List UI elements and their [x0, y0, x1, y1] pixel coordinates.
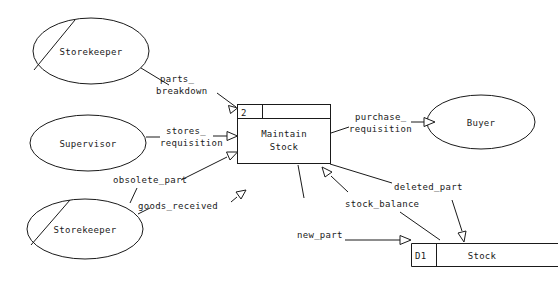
datastore-name: Stock — [468, 251, 497, 261]
flow-label-line1: goods_received — [138, 201, 218, 211]
arrow-head-icon — [322, 167, 332, 177]
flow-label-line2: requisition — [349, 124, 412, 134]
flow-line-segment-b — [217, 93, 236, 107]
arrow-head-icon — [458, 231, 466, 242]
arrow-head-icon — [236, 190, 246, 199]
process-name-line1: Maintain — [261, 129, 307, 139]
datastore-stock[interactable]: D1 Stock — [412, 244, 558, 267]
entity-label: Storekeeper — [60, 47, 123, 57]
process-number: 2 — [241, 108, 247, 118]
flow-label-line1: purchase_ — [355, 112, 407, 122]
entity-label: Storekeeper — [54, 225, 117, 235]
entity-label: Supervisor — [59, 139, 116, 149]
process-maintain-stock[interactable]: 2 Maintain Stock — [238, 105, 331, 164]
flow-stores-requisition[interactable]: stores_ requisition — [146, 126, 238, 148]
arrow-head-icon — [227, 152, 238, 160]
flow-line-segment-b — [231, 197, 237, 202]
data-flow-diagram: Storekeeper Supervisor Storekeeper Buyer… — [0, 0, 558, 281]
external-entity-storekeeper-bottom[interactable]: Storekeeper — [27, 199, 143, 259]
flow-line-segment-b — [331, 176, 348, 192]
arrow-head-icon — [400, 236, 411, 245]
entity-label: Buyer — [467, 118, 496, 128]
flow-label-line2: requisition — [160, 138, 223, 148]
external-entity-storekeeper-top[interactable]: Storekeeper — [33, 18, 149, 84]
flow-line-segment-b — [181, 157, 227, 180]
flow-line-segment-a — [331, 127, 349, 133]
flow-parts-breakdown[interactable]: parts_ breakdown — [141, 68, 238, 114]
flow-label-line1: stores_ — [166, 126, 206, 136]
datastore-code: D1 — [415, 251, 426, 261]
flow-purchase-requisition[interactable]: purchase_ requisition — [331, 112, 435, 134]
flow-line-segment-a — [400, 212, 440, 240]
arrow-head-icon — [227, 132, 238, 141]
flow-label-line2: breakdown — [156, 86, 207, 96]
flow-label-line1: obsolete_part — [113, 175, 187, 185]
flow-label-line1: new_part — [297, 230, 343, 240]
flow-line-segment-a — [330, 164, 392, 183]
flow-line-segment-b — [452, 200, 462, 231]
flow-goods-received[interactable]: goods_received — [138, 190, 246, 214]
process-name-line2: Stock — [270, 142, 299, 152]
flow-line-segment-a — [298, 165, 304, 198]
flow-label-line1: parts_ — [160, 74, 195, 84]
flow-label-line1: stock_balance — [345, 199, 419, 209]
flow-line-segment-a — [130, 188, 137, 203]
flow-label-line1: deleted_part — [394, 182, 463, 192]
external-entity-buyer[interactable]: Buyer — [427, 95, 535, 149]
dfd-canvas: Storekeeper Supervisor Storekeeper Buyer… — [0, 0, 558, 281]
external-entity-supervisor[interactable]: Supervisor — [30, 115, 146, 171]
